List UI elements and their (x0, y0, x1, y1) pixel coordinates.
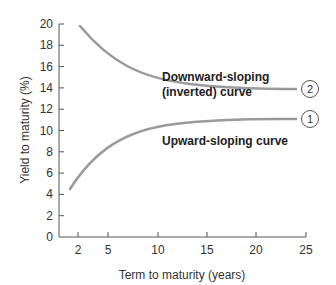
svg-text:10: 10 (40, 124, 54, 138)
svg-text:8: 8 (46, 145, 53, 159)
svg-text:14: 14 (40, 81, 54, 95)
y-axis (59, 24, 64, 237)
inverted-curve-label-line1: Downward-sloping (162, 70, 269, 84)
svg-text:18: 18 (40, 38, 54, 52)
upward-curve-line (70, 119, 296, 189)
svg-text:5: 5 (105, 243, 112, 257)
svg-text:2: 2 (307, 83, 313, 95)
svg-text:20: 20 (40, 17, 54, 31)
x-axis-title: Term to maturity (years) (119, 268, 246, 282)
svg-text:15: 15 (200, 243, 214, 257)
svg-text:4: 4 (46, 187, 53, 201)
svg-text:12: 12 (40, 102, 54, 116)
svg-text:0: 0 (46, 230, 53, 244)
svg-text:2: 2 (46, 209, 53, 223)
svg-text:6: 6 (46, 166, 53, 180)
svg-text:25: 25 (299, 243, 313, 257)
x-tick-labels: 2 5 10 15 20 25 (75, 243, 313, 257)
y-axis-title: Yield to maturity (%) (18, 76, 32, 184)
svg-text:20: 20 (249, 243, 263, 257)
inverted-curve-label-line2: (inverted) curve (162, 85, 252, 99)
svg-text:1: 1 (307, 113, 313, 125)
upward-curve-label: Upward-sloping curve (162, 134, 288, 148)
svg-text:10: 10 (151, 243, 165, 257)
curve-1-marker: 1 (302, 111, 319, 128)
svg-text:16: 16 (40, 60, 54, 74)
curve-2-marker: 2 (302, 81, 319, 98)
y-tick-labels: 20 18 16 14 12 10 8 6 4 2 0 (40, 17, 54, 244)
yield-curve-chart: 20 18 16 14 12 10 8 6 4 2 0 2 5 10 15 20… (0, 0, 336, 285)
x-axis (59, 232, 306, 237)
svg-text:2: 2 (75, 243, 82, 257)
